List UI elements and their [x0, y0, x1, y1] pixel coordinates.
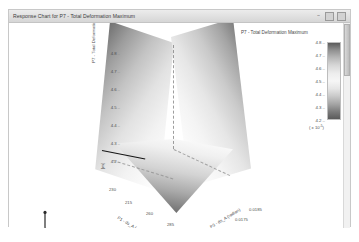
z-axis-tick: 4.8–	[111, 51, 120, 56]
z-axis-tick-labels: 4.8– 4.7– 4.6– 4.5– 4.4– 4.3– 4.2–	[104, 51, 120, 181]
colorbar-tick: 4.2–	[315, 118, 325, 123]
maximize-icon[interactable]	[325, 12, 334, 21]
colorbar-tick-labels: 4.8– 4.7– 4.6– 4.5– 4.4– 4.3– 4.2–	[304, 39, 325, 123]
vertical-scrollbar[interactable]	[343, 23, 350, 228]
z-axis-tick: 4.6–	[111, 87, 120, 92]
chart-canvas[interactable]: P7 - Total Deformation Maximum 4.8– 4.7–…	[9, 23, 350, 228]
x-axis-tick: 260	[146, 211, 153, 216]
window-title-bar[interactable]: Response Chart for P7 - Total Deformatio…	[9, 10, 350, 23]
colorbar-tick: 4.8–	[315, 40, 325, 45]
colorbar-tick: 4.3–	[315, 105, 325, 110]
colorbar-exponent-label: ( x 10-5)	[309, 124, 324, 130]
vertical-scrollbar-thumb[interactable]	[344, 24, 350, 76]
colorbar-gradient	[327, 42, 341, 120]
response-chart-window: Response Chart for P7 - Total Deformatio…	[8, 9, 351, 227]
legend-title: P7 - Total Deformation Maximum	[241, 30, 308, 35]
z-axis-tick: 4.2–	[111, 159, 120, 164]
close-icon[interactable]	[337, 12, 346, 21]
x-axis-tick: 285	[167, 222, 174, 227]
colorbar-tick: 4.7–	[315, 53, 325, 58]
z-axis-title: P7 - Total Deformation Maximum	[91, 23, 96, 63]
colorbar-tick: 4.6–	[315, 66, 325, 71]
surface-gridline-vertical	[173, 45, 174, 149]
x-axis-tick: 230	[109, 187, 116, 192]
y-axis-tick: 0.0175	[235, 217, 248, 222]
coordinate-axes-triad-icon	[29, 209, 61, 228]
z-axis-tick: 4.3–	[111, 141, 120, 146]
window-title: Response Chart for P7 - Total Deformatio…	[9, 13, 315, 19]
z-axis-tick: 4.4–	[111, 123, 120, 128]
z-axis-tick: 4.7–	[111, 69, 120, 74]
minimize-icon[interactable]: –	[315, 13, 322, 20]
z-axis-tick: 4.5–	[111, 105, 120, 110]
x-axis-tick: 215	[125, 200, 132, 205]
colorbar-tick: 4.5–	[315, 79, 325, 84]
window-controls: –	[315, 12, 350, 21]
y-axis-tick-labels: 0.0185 0.0175 0.0195	[177, 195, 273, 228]
surface-plot[interactable]: P7 - Total Deformation Maximum [m] 4.8– …	[105, 29, 245, 214]
colorbar-tick: 4.4–	[315, 92, 325, 97]
y-axis-tick: 0.0185	[249, 207, 262, 212]
